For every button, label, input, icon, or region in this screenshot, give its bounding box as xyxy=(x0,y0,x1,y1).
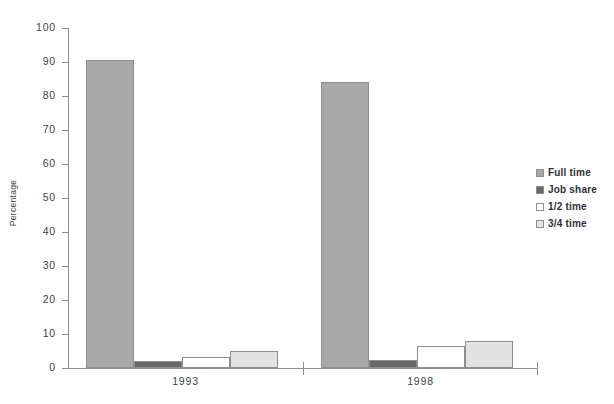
bar xyxy=(417,346,465,368)
x-axis-category-label: 1998 xyxy=(303,375,538,387)
y-axis-tick-label: 80 xyxy=(0,90,56,101)
bar xyxy=(134,361,182,368)
legend-swatch-icon xyxy=(536,203,544,211)
legend-item[interactable]: 3/4 time xyxy=(536,215,614,232)
bar xyxy=(230,351,278,368)
legend-swatch-icon xyxy=(536,169,544,177)
legend-item-label: 3/4 time xyxy=(548,218,587,229)
y-axis-tick-label: 40 xyxy=(0,226,56,237)
legend-item-label: 1/2 time xyxy=(548,201,587,212)
bar xyxy=(321,82,369,368)
legend-swatch-icon xyxy=(536,186,544,194)
y-axis-tick-label: 30 xyxy=(0,260,56,271)
y-axis-tick-label: 10 xyxy=(0,328,56,339)
bar xyxy=(86,60,134,368)
y-axis-tick-label: 0 xyxy=(0,362,56,373)
legend-swatch-icon xyxy=(536,220,544,228)
chart-legend: Full timeJob share1/2 time3/4 time xyxy=(536,164,614,232)
chart-title xyxy=(0,0,614,7)
legend-item[interactable]: 1/2 time xyxy=(536,198,614,215)
y-axis-caption: Percentage xyxy=(8,180,18,226)
y-axis-tick-label: 20 xyxy=(0,294,56,305)
legend-item-label: Full time xyxy=(548,167,591,178)
bars-layer xyxy=(68,28,538,368)
y-axis-tick-label: 60 xyxy=(0,158,56,169)
bar xyxy=(465,341,513,368)
y-axis-tick-label: 90 xyxy=(0,56,56,67)
bar-chart: 1009080706050403020100 Percentage 199319… xyxy=(0,0,614,404)
bar xyxy=(182,357,230,368)
bar xyxy=(369,360,417,368)
legend-item[interactable]: Full time xyxy=(536,164,614,181)
legend-item-label: Job share xyxy=(548,184,597,195)
y-axis-tick-label: 100 xyxy=(0,22,56,33)
x-axis-category-label: 1993 xyxy=(68,375,303,387)
y-axis-tick-label: 70 xyxy=(0,124,56,135)
legend-item[interactable]: Job share xyxy=(536,181,614,198)
